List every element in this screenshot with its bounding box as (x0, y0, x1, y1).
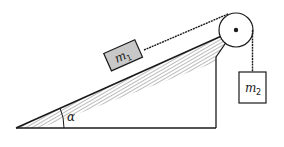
svg-text:m: m (245, 81, 256, 95)
svg-text:2: 2 (256, 88, 261, 97)
angle-label: α (67, 110, 75, 124)
incline-pulley-diagram: α m 1 m 2 (0, 0, 284, 147)
block-m1: m 1 (104, 40, 143, 71)
block-m2: m 2 (239, 72, 266, 103)
pulley-axle (234, 28, 238, 32)
